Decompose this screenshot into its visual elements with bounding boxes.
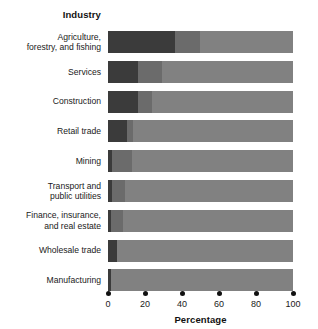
bar-segment-1: [108, 61, 138, 83]
bar-segment-1: [108, 31, 175, 53]
x-axis-title: Percentage: [108, 314, 293, 325]
category-label-line: Transport and: [48, 181, 101, 192]
stacked-bar: [108, 180, 293, 202]
stacked-bar: [108, 240, 293, 262]
stacked-bar: [108, 120, 293, 142]
x-axis-tick: 20: [130, 291, 160, 309]
bar-segment-1: [108, 91, 138, 113]
category-label-line: Agriculture,: [58, 32, 101, 43]
category-label-line: and real estate: [44, 221, 101, 232]
bar-row: Transport andpublic utilities: [0, 180, 318, 202]
tick-dot-icon: [143, 291, 148, 296]
tick-dot-icon: [106, 291, 111, 296]
bar-segment-2: [112, 180, 125, 202]
bar-segment-1: [108, 120, 127, 142]
plot-area: Agriculture,forestry, and fishingService…: [0, 24, 318, 290]
bar-segment-3: [132, 150, 293, 172]
x-axis-tick: 60: [204, 291, 234, 309]
bar-segment-2: [138, 61, 162, 83]
category-label-line: forestry, and fishing: [27, 42, 101, 53]
bar-segment-3: [200, 31, 293, 53]
x-axis-tick: 80: [241, 291, 271, 309]
category-label: Finance, insurance,and real estate: [0, 210, 101, 232]
x-axis-tick-label: 60: [204, 299, 234, 309]
category-label-line: Retail trade: [57, 126, 101, 137]
bar-segment-3: [162, 61, 293, 83]
x-axis-tick: 0: [93, 291, 123, 309]
stacked-bar-chart: Industry Agriculture,forestry, and fishi…: [0, 0, 318, 329]
stacked-bar: [108, 150, 293, 172]
bar-row: Finance, insurance,and real estate: [0, 210, 318, 232]
x-axis-tick: 40: [167, 291, 197, 309]
category-label-line: public utilities: [50, 191, 101, 202]
tick-dot-icon: [291, 291, 296, 296]
stacked-bar: [108, 91, 293, 113]
bar-row: Mining: [0, 150, 318, 172]
bar-row: Manufacturing: [0, 269, 318, 291]
bar-segment-2: [112, 150, 132, 172]
bar-segment-3: [152, 91, 293, 113]
bar-segment-3: [125, 180, 293, 202]
x-axis-tick-label: 0: [93, 299, 123, 309]
tick-dot-icon: [254, 291, 259, 296]
category-label-line: Wholesale trade: [39, 245, 101, 256]
y-axis-title: Industry: [0, 9, 101, 20]
bar-segment-2: [138, 91, 153, 113]
x-axis: Percentage 020406080100: [0, 291, 318, 329]
category-label-line: Services: [68, 67, 101, 78]
category-label-line: Finance, insurance,: [26, 210, 101, 221]
stacked-bar: [108, 210, 293, 232]
bar-row: Wholesale trade: [0, 240, 318, 262]
bar-segment-3: [133, 120, 293, 142]
bar-row: Agriculture,forestry, and fishing: [0, 31, 318, 53]
category-label: Agriculture,forestry, and fishing: [0, 31, 101, 53]
category-label: Services: [0, 61, 101, 83]
bar-segment-1: [108, 240, 117, 262]
stacked-bar: [108, 31, 293, 53]
x-axis-tick-label: 80: [241, 299, 271, 309]
bar-segment-3: [117, 240, 293, 262]
bar-row: Construction: [0, 91, 318, 113]
bar-segment-2: [111, 210, 123, 232]
stacked-bar: [108, 269, 293, 291]
category-label: Transport andpublic utilities: [0, 180, 101, 202]
tick-dot-icon: [217, 291, 222, 296]
category-label: Manufacturing: [0, 269, 101, 291]
bar-row: Services: [0, 61, 318, 83]
x-axis-tick-label: 20: [130, 299, 160, 309]
category-label: Wholesale trade: [0, 240, 101, 262]
bar-segment-3: [123, 210, 293, 232]
category-label-line: Mining: [76, 156, 101, 167]
category-label-line: Manufacturing: [47, 275, 101, 286]
bar-segment-2: [175, 31, 201, 53]
category-label: Retail trade: [0, 120, 101, 142]
bar-segment-3: [111, 269, 293, 291]
stacked-bar: [108, 61, 293, 83]
category-label: Construction: [0, 91, 101, 113]
x-axis-tick-label: 100: [278, 299, 308, 309]
bar-row: Retail trade: [0, 120, 318, 142]
category-label: Mining: [0, 150, 101, 172]
x-axis-tick: 100: [278, 291, 308, 309]
tick-dot-icon: [180, 291, 185, 296]
x-axis-tick-label: 40: [167, 299, 197, 309]
category-label-line: Construction: [53, 96, 101, 107]
